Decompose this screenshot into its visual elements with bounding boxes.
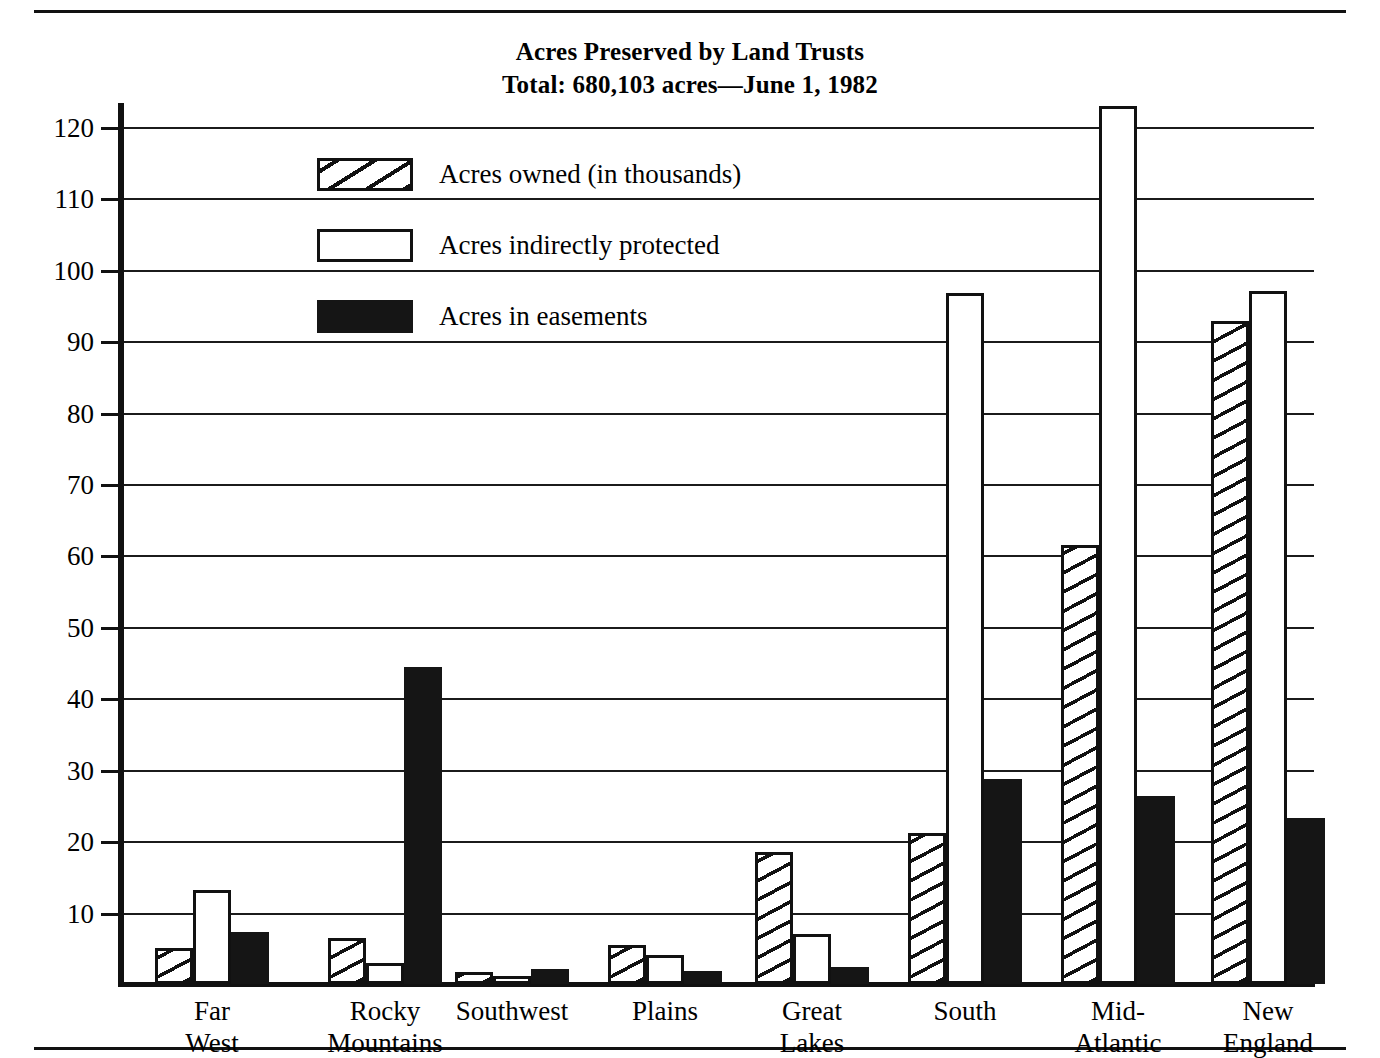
bar-owned	[1061, 545, 1099, 984]
bar-owned	[908, 833, 946, 984]
bar-owned	[608, 945, 646, 984]
x-axis-label: Southwest	[456, 996, 569, 1028]
y-tick-90	[101, 341, 118, 344]
bar-protected	[1099, 106, 1137, 984]
y-tick-label-90: 90	[67, 329, 94, 356]
y-tick-110	[101, 198, 118, 201]
bar-protected	[366, 963, 404, 984]
legend-label-protected: Acres indirectly protected	[439, 232, 719, 259]
x-axis-label-line: England	[1223, 1028, 1313, 1058]
y-tick-50	[101, 627, 118, 630]
bar-easements	[1137, 796, 1175, 984]
legend-item-easements: Acres in easements	[317, 281, 747, 352]
bar-protected	[1249, 291, 1287, 984]
legend-swatch-owned-icon	[317, 158, 413, 191]
y-tick-label-120: 120	[54, 114, 95, 141]
legend-item-owned: Acres owned (in thousands)	[317, 139, 747, 210]
x-axis-label-line: West	[185, 1028, 238, 1058]
y-tick-100	[101, 270, 118, 273]
x-axis-label-line: Mid-	[1075, 996, 1162, 1028]
bar-easements	[684, 971, 722, 984]
bar-protected	[646, 955, 684, 984]
y-tick-70	[101, 484, 118, 487]
y-tick-label-10: 10	[67, 900, 94, 927]
bar-owned	[155, 948, 193, 984]
bar-group	[908, 107, 1022, 984]
y-tick-20	[101, 841, 118, 844]
bar-owned	[755, 852, 793, 984]
x-axis-label-line: South	[933, 996, 996, 1028]
x-axis-label: NewEngland	[1223, 996, 1313, 1058]
x-axis-label-line: New	[1223, 996, 1313, 1028]
y-tick-60	[101, 555, 118, 558]
legend-swatch-protected-icon	[317, 229, 413, 262]
y-tick-30	[101, 770, 118, 773]
chart-title: Acres Preserved by Land Trusts	[0, 36, 1380, 69]
bar-easements	[231, 932, 269, 984]
legend-item-protected: Acres indirectly protected	[317, 210, 747, 281]
x-axis-label: Mid-Atlantic	[1075, 996, 1162, 1058]
bar-easements	[831, 967, 869, 984]
legend-swatch-easements-icon	[317, 300, 413, 333]
x-axis-label: GreatLakes	[780, 996, 844, 1058]
bar-easements	[531, 969, 569, 984]
y-tick-10	[101, 913, 118, 916]
bar-easements	[404, 667, 442, 984]
bar-group	[1061, 107, 1175, 984]
x-axis-label: RockyMountains	[327, 996, 443, 1058]
bar-protected	[493, 976, 531, 984]
x-axis-label-line: Mountains	[327, 1028, 443, 1058]
y-tick-80	[101, 413, 118, 416]
y-tick-label-70: 70	[67, 472, 94, 499]
y-tick-label-40: 40	[67, 686, 94, 713]
bar-group	[155, 107, 269, 984]
chart-subtitle: Total: 680,103 acres—June 1, 1982	[0, 69, 1380, 102]
x-axis-label-line: Atlantic	[1075, 1028, 1162, 1058]
bar-protected	[946, 293, 984, 984]
chart-figure: Acres Preserved by Land Trusts Total: 68…	[0, 0, 1380, 1058]
x-axis-label-line: Great	[780, 996, 844, 1028]
bar-owned	[328, 938, 366, 984]
y-tick-label-60: 60	[67, 543, 94, 570]
chart-title-block: Acres Preserved by Land Trusts Total: 68…	[0, 36, 1380, 101]
bar-owned	[1211, 321, 1249, 984]
y-tick-40	[101, 698, 118, 701]
x-axis-label: FarWest	[185, 996, 238, 1058]
bar-easements	[984, 779, 1022, 984]
x-axis-label: South	[933, 996, 996, 1028]
y-tick-label-30: 30	[67, 757, 94, 784]
bar-protected	[193, 890, 231, 984]
x-axis-label-line: Lakes	[780, 1028, 844, 1058]
x-axis-label-line: Plains	[632, 996, 698, 1028]
y-tick-label-100: 100	[54, 257, 95, 284]
legend-label-easements: Acres in easements	[439, 303, 647, 330]
y-tick-label-50: 50	[67, 614, 94, 641]
x-axis-label-line: Southwest	[456, 996, 569, 1028]
legend-label-owned: Acres owned (in thousands)	[439, 161, 741, 188]
x-axis-label-line: Far	[185, 996, 238, 1028]
y-tick-label-20: 20	[67, 829, 94, 856]
chart-legend: Acres owned (in thousands) Acres indirec…	[317, 139, 747, 352]
y-tick-120	[101, 127, 118, 130]
bar-easements	[1287, 818, 1325, 984]
y-tick-label-80: 80	[67, 400, 94, 427]
bar-group	[1211, 107, 1325, 984]
bar-group	[755, 107, 869, 984]
bar-protected	[793, 934, 831, 984]
x-axis-label: Plains	[632, 996, 698, 1028]
x-axis-label-line: Rocky	[327, 996, 443, 1028]
y-tick-label-110: 110	[55, 186, 95, 213]
bar-owned	[455, 972, 493, 984]
top-rule	[34, 10, 1346, 13]
